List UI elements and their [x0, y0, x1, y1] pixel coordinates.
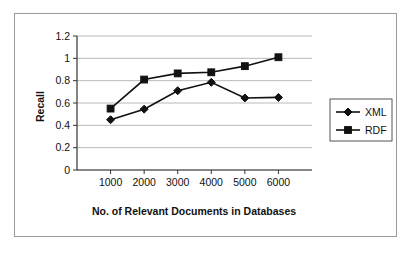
data-point-xml	[140, 105, 148, 113]
y-tick-label: 1.2	[55, 30, 70, 42]
data-series-group	[107, 54, 283, 124]
y-axis-tick-labels: 00.20.40.60.811.2	[55, 30, 77, 176]
x-axis-title: No. of Relevant Documents in Databases	[92, 205, 296, 217]
data-point-rdf	[275, 54, 282, 61]
y-tick-label: 0.4	[55, 119, 70, 131]
x-tick-label: 4000	[200, 176, 224, 188]
x-tick-label: 5000	[233, 176, 257, 188]
data-point-xml	[241, 94, 249, 102]
x-tick-label: 2000	[132, 176, 156, 188]
series-line-rdf	[111, 57, 279, 108]
y-tick-label: 0	[64, 164, 70, 176]
data-point-xml	[274, 93, 282, 101]
x-tick-label: 1000	[99, 176, 123, 188]
data-point-xml	[207, 78, 215, 86]
x-tick-label: 6000	[267, 176, 291, 188]
x-axis-tick-labels: 100020003000400050006000	[99, 170, 290, 188]
y-axis-title: Recall	[34, 91, 46, 122]
y-tick-label: 0.8	[55, 74, 70, 86]
series-line-xml	[111, 82, 279, 119]
data-point-xml	[174, 87, 182, 95]
data-point-rdf	[107, 105, 114, 112]
y-tick-label: 1	[64, 52, 70, 64]
data-point-rdf	[241, 63, 248, 70]
data-point-rdf	[174, 70, 181, 77]
legend-marker-rdf	[345, 127, 352, 134]
y-tick-label: 0.6	[55, 97, 70, 109]
legend-label-rdf: RDF	[365, 124, 387, 136]
recall-line-chart: 00.20.40.60.811.2 1000200030004000500060…	[0, 0, 414, 261]
y-tick-label: 0.2	[55, 141, 70, 153]
chart-legend: XMLRDF	[330, 99, 392, 141]
data-point-rdf	[141, 76, 148, 83]
data-point-xml	[107, 116, 115, 124]
data-point-rdf	[208, 69, 215, 76]
x-tick-label: 3000	[166, 176, 190, 188]
legend-label-xml: XML	[365, 106, 387, 118]
